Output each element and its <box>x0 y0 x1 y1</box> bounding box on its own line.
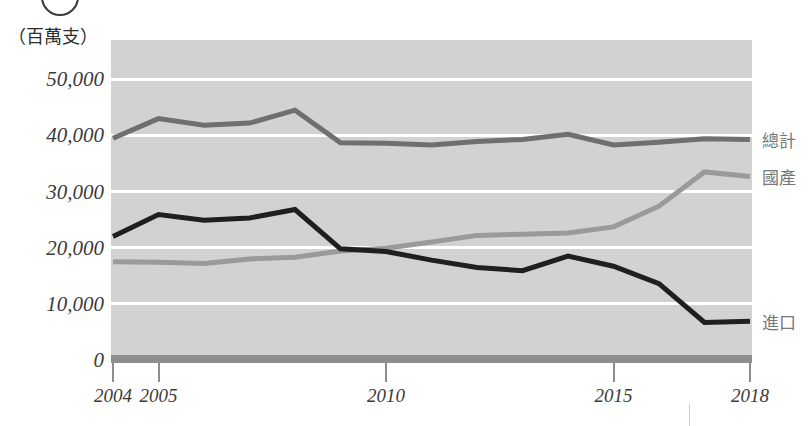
x-axis-tick <box>385 363 387 382</box>
x-axis-tick <box>112 363 114 382</box>
series-label-total: 總計 <box>762 127 796 152</box>
y-axis-tick-label: 40,000 <box>0 123 104 148</box>
x-axis-tick-label: 2004 <box>94 385 132 407</box>
x-axis-tick-label: 2005 <box>140 385 178 407</box>
x-axis-tick-label: 2010 <box>367 385 405 407</box>
y-axis-tick-label: 50,000 <box>0 67 104 92</box>
series-label-import: 進口 <box>762 309 796 334</box>
chart-figure: （百萬支） 010,00020,00030,00040,00050,000 20… <box>0 0 812 426</box>
x-axis-tick <box>158 363 160 382</box>
y-axis-unit-label: （百萬支） <box>8 22 98 48</box>
y-axis-tick-label: 10,000 <box>0 291 104 316</box>
figure-number-badge <box>41 0 79 16</box>
y-axis-tick-label: 0 <box>0 348 104 373</box>
plot-area <box>111 40 752 360</box>
x-axis-baseline <box>111 355 752 363</box>
x-axis-tick <box>613 363 615 382</box>
y-axis-tick-label: 20,000 <box>0 235 104 260</box>
series-line <box>113 210 750 323</box>
series-lines <box>111 40 752 360</box>
y-axis-tick-label: 30,000 <box>0 179 104 204</box>
page-margin-mark <box>689 404 690 426</box>
x-axis-tick-label: 2015 <box>595 385 633 407</box>
x-axis-tick <box>749 363 751 382</box>
series-line <box>113 110 750 145</box>
x-axis-tick-label: 2018 <box>731 385 769 407</box>
series-label-domestic: 國產 <box>762 164 796 189</box>
